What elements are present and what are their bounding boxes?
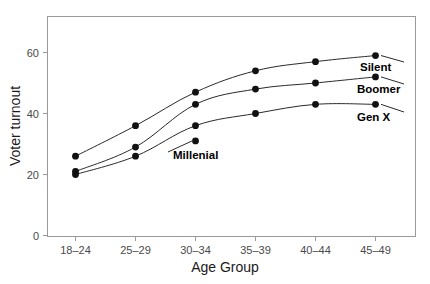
series-line-gen-x	[76, 104, 376, 175]
series-label-silent: Silent	[360, 61, 391, 73]
x-axis-ticks	[76, 237, 376, 242]
x-tick-label-18-24: 18–24	[60, 244, 91, 256]
data-point-gen-x-5	[372, 101, 379, 108]
x-tick-label-40-44: 40–44	[300, 244, 331, 256]
data-point-silent-3	[252, 67, 259, 74]
series-label-genx: Gen X	[357, 111, 391, 123]
chart-canvas: 0 20 40 60 Voter turnout 18–24 25–29 30–…	[0, 0, 430, 284]
data-point-boomer-5	[372, 74, 379, 81]
x-axis-title: Age Group	[191, 259, 259, 275]
data-point-boomer-1	[132, 144, 139, 151]
data-point-boomer-3	[252, 86, 259, 93]
series-line-silent	[76, 56, 376, 157]
data-point-gen-x-1	[132, 153, 139, 160]
series-label-boomer: Boomer	[357, 83, 401, 95]
series-line-boomer	[76, 77, 376, 172]
data-point-gen-x-0	[72, 171, 79, 178]
data-point-millenial-0	[192, 138, 199, 145]
data-point-silent-5	[372, 52, 379, 59]
y-tick-label-60: 60	[27, 47, 39, 59]
x-tick-label-45-49: 45–49	[360, 244, 391, 256]
x-tick-label-35-39: 35–39	[240, 244, 271, 256]
y-axis-ticks	[43, 53, 48, 236]
data-point-boomer-4	[312, 80, 319, 87]
series-label-millenial: Millenial	[173, 149, 218, 161]
data-point-gen-x-2	[192, 122, 199, 129]
x-tick-label-30-34: 30–34	[180, 244, 211, 256]
data-point-silent-1	[132, 122, 139, 129]
y-tick-label-20: 20	[27, 169, 39, 181]
data-point-silent-4	[312, 58, 319, 65]
data-point-silent-0	[72, 153, 79, 160]
data-point-gen-x-3	[252, 110, 259, 117]
voter-turnout-chart: 0 20 40 60 Voter turnout 18–24 25–29 30–…	[0, 0, 430, 284]
data-series-layer	[72, 52, 404, 178]
data-point-boomer-2	[192, 101, 199, 108]
x-tick-label-25-29: 25–29	[120, 244, 151, 256]
y-axis-title: Voter turnout	[7, 86, 23, 166]
y-tick-label-0: 0	[33, 230, 39, 242]
plot-frame	[48, 17, 416, 237]
y-tick-label-40: 40	[27, 108, 39, 120]
data-point-silent-2	[192, 89, 199, 96]
data-point-gen-x-4	[312, 101, 319, 108]
